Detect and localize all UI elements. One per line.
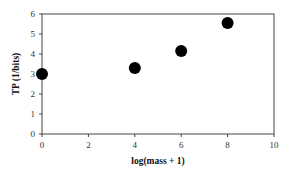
- y-tick-label: 0: [31, 129, 36, 139]
- y-axis-title: TP (1/bits): [11, 53, 22, 96]
- data-points: [36, 17, 234, 80]
- plot-border: [42, 14, 274, 134]
- x-tick-label: 8: [225, 140, 230, 150]
- y-tick-label: 6: [31, 9, 36, 19]
- y-tick-label: 3: [31, 69, 36, 79]
- x-tick-label: 10: [270, 140, 280, 150]
- data-point: [222, 17, 234, 29]
- scatter-chart: 0123456 0246810 log(mass + 1) TP (1/bits…: [0, 0, 290, 174]
- x-tick-label: 0: [40, 140, 45, 150]
- x-axis-ticks: 0246810: [40, 134, 279, 150]
- data-point: [129, 62, 141, 74]
- x-tick-label: 6: [179, 140, 184, 150]
- y-tick-label: 2: [31, 89, 36, 99]
- y-tick-label: 1: [31, 109, 36, 119]
- x-tick-label: 2: [86, 140, 91, 150]
- data-point: [175, 45, 187, 57]
- y-tick-label: 5: [31, 29, 36, 39]
- y-tick-label: 4: [31, 49, 36, 59]
- data-point: [36, 68, 48, 80]
- plot-frame: [42, 14, 274, 134]
- x-tick-label: 4: [133, 140, 138, 150]
- x-axis-title: log(mass + 1): [131, 156, 184, 167]
